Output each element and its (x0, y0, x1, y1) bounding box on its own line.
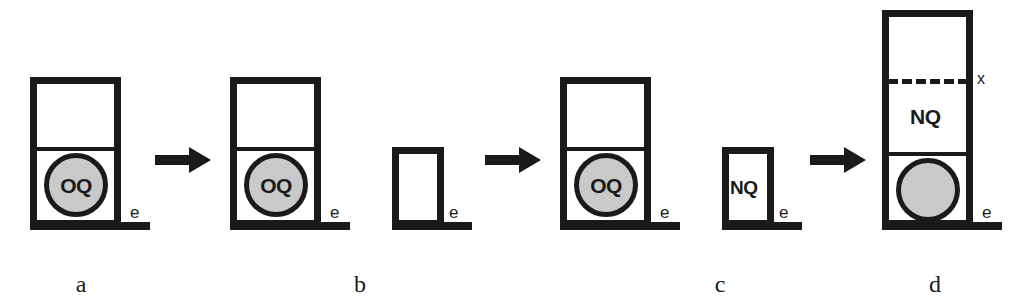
panel-d-caption: d (920, 272, 950, 296)
panel-b-ball-label: OQ (260, 175, 292, 196)
panel-b-ground-label-2: e (449, 204, 458, 221)
panel-b: OQ e e b (215, 0, 465, 260)
panel-c-nq-label: NQ (730, 178, 758, 197)
panel-b-divider (230, 147, 321, 151)
arrow-a-to-b (155, 143, 213, 177)
panel-d-level-line (888, 79, 968, 84)
panel-a-baseline (30, 222, 150, 230)
panel-d-divider (882, 152, 973, 156)
panel-c-ground-label-2: e (779, 204, 788, 221)
panel-c-baseline-2 (722, 222, 802, 230)
panel-a-ground-label: e (130, 204, 139, 221)
panel-c-ball: OQ (574, 153, 638, 217)
panel-d-baseline (882, 222, 1002, 230)
panel-a-ball-label: OQ (60, 175, 92, 196)
panel-d-ball (896, 158, 960, 222)
panel-b-ball: OQ (244, 153, 308, 217)
panel-c: OQ e NQ e c (545, 0, 795, 260)
panel-a-divider (30, 147, 121, 151)
arrow-right-icon (155, 143, 213, 177)
panel-c-baseline (560, 222, 680, 230)
panel-c-divider (560, 147, 651, 151)
panel-b-baseline (230, 222, 350, 230)
panel-d-nq-label: NQ (910, 106, 941, 127)
figure-canvas: OQ e a OQ e e b (0, 0, 1027, 306)
panel-c-caption: c (705, 272, 735, 296)
panel-b-caption: b (345, 272, 375, 296)
panel-b-vessel-empty (392, 147, 444, 227)
panel-a-ball: OQ (44, 153, 108, 217)
panel-d-level-label: x (977, 71, 985, 87)
panel-a-caption: a (66, 272, 96, 296)
panel-c-ground-label: e (660, 204, 669, 221)
arrow-right-icon (485, 143, 543, 177)
panel-d: x NQ e d (860, 0, 1027, 260)
panel-d-ground-label: e (982, 204, 991, 221)
panel-b-baseline-2 (392, 222, 472, 230)
panel-c-ball-label: OQ (590, 175, 622, 196)
arrow-b-to-c (485, 143, 543, 177)
panel-a: OQ e a (0, 0, 175, 260)
panel-b-ground-label: e (330, 204, 339, 221)
